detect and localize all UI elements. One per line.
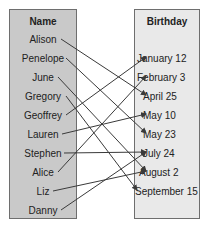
arrow-danny — [61, 152, 146, 210]
arrow-alison — [61, 39, 146, 95]
arrow-penelope — [66, 58, 146, 133]
arrow-geoffrey — [66, 57, 146, 115]
arrow-gregory — [66, 96, 137, 190]
mapping-arrows — [0, 0, 210, 227]
arrow-lauren — [62, 114, 146, 134]
arrow-liz — [53, 171, 146, 191]
